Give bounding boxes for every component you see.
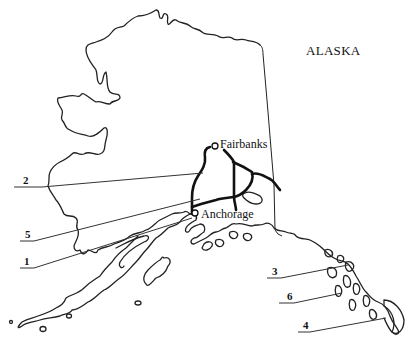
callout-label-6: 6 <box>287 291 293 302</box>
glenn-highway <box>192 197 234 207</box>
inland-lake <box>243 192 262 204</box>
fairbanks-marker <box>212 143 218 149</box>
callout-label-3: 3 <box>272 266 278 277</box>
island <box>135 301 141 305</box>
island <box>40 327 46 332</box>
kodiak-island <box>144 257 170 285</box>
city-label-anchorage: Anchorage <box>201 208 254 220</box>
island <box>67 314 72 318</box>
leader-line-5 <box>20 199 200 241</box>
alaska-peninsula-coastline <box>18 214 190 328</box>
leader-line-2 <box>14 173 203 187</box>
leader-line-4 <box>298 318 386 332</box>
callout-label-2: 2 <box>23 175 29 186</box>
callout-label-5: 5 <box>25 229 31 240</box>
island <box>10 321 13 324</box>
south-central-coastline <box>185 213 398 334</box>
alaska-map: ALASKA Fairbanks Anchorage 2 5 1 3 6 4 <box>0 0 417 347</box>
map-title: ALASKA <box>306 44 361 57</box>
leader-line-1 <box>20 218 192 268</box>
callout-label-4: 4 <box>303 320 309 331</box>
anchorage-marker <box>192 210 198 216</box>
callout-label-1: 1 <box>24 256 30 267</box>
richardson-highway <box>224 150 236 210</box>
tok-cutoff <box>252 173 280 190</box>
kenai-islands <box>202 231 252 250</box>
city-label-fairbanks: Fairbanks <box>220 138 267 150</box>
